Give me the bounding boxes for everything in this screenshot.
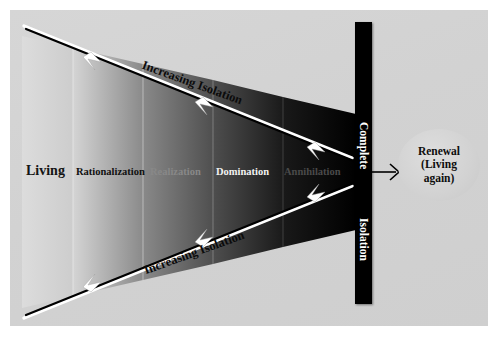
diagram-canvas: Living Rationalization Realization Domin… — [0, 0, 502, 342]
renewal-line-two: (Living — [418, 158, 460, 172]
renewal-connector — [372, 164, 399, 180]
complete-isolation-line-two: Isolation — [358, 218, 370, 261]
renewal-ellipse: Renewal (Living again) — [398, 129, 480, 201]
renewal-line-three: again) — [418, 172, 460, 186]
band-label-rationalization: Rationalization — [76, 166, 145, 177]
renewal-line-one: Renewal — [418, 145, 460, 159]
complete-isolation-bar: Complete Isolation — [355, 22, 372, 304]
renewal-label: Renewal (Living again) — [418, 145, 460, 186]
band-label-realization: Realization — [150, 166, 201, 177]
band-label-living: Living — [26, 163, 65, 179]
complete-isolation-line-one: Complete — [358, 122, 370, 169]
band-label-domination: Domination — [216, 166, 269, 177]
band-label-annihilation: Annihilation — [284, 166, 341, 177]
